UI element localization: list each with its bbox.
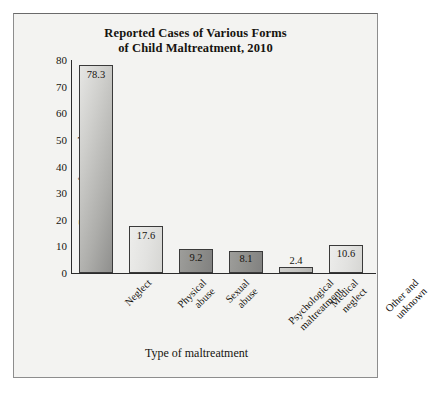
x-label-neglect-line-1: Neglect [123, 277, 155, 309]
y-tick-60: 60 [56, 107, 67, 119]
y-tick-10: 10 [56, 240, 67, 252]
y-tick-70: 70 [56, 81, 67, 93]
bar-value-medical-neglect: 2.4 [280, 255, 312, 266]
bar-value-physical-abuse: 17.6 [130, 230, 162, 241]
y-tick-0: 0 [62, 267, 68, 279]
bar-psychological-maltreatment[interactable]: 8.1 [229, 251, 263, 273]
bar-slot-medical-neglect: 2.4 [279, 60, 313, 273]
bar-physical-abuse[interactable]: 17.6 [129, 226, 163, 273]
y-tick-40: 40 [56, 161, 67, 173]
bar-slot-psychological-maltreatment: 8.1 [229, 60, 263, 273]
bar-neglect[interactable]: 78.3 [79, 65, 113, 274]
chart-figure: Reported Cases of Various Forms of Child… [13, 13, 378, 378]
plot-area: Percent of reported cases 0 10 20 30 40 … [71, 60, 376, 273]
bar-sexual-abuse[interactable]: 9.2 [179, 249, 213, 274]
x-axis-line [71, 273, 376, 274]
bar-value-other-and-unknown: 10.6 [330, 248, 362, 259]
y-tick-20: 20 [56, 214, 67, 226]
x-label-sexual-abuse: Sexual abuse [223, 277, 260, 314]
bar-value-neglect: 78.3 [80, 69, 112, 80]
x-label-physical-abuse: Physical abuse [175, 277, 217, 319]
chart-title-line-2: of Child Maltreatment, 2010 [14, 41, 377, 56]
bar-other-and-unknown[interactable]: 10.6 [329, 245, 363, 273]
y-tick-80: 80 [56, 54, 67, 66]
y-axis-line [71, 60, 72, 273]
bar-value-psychological-maltreatment: 8.1 [230, 253, 262, 264]
bar-slot-physical-abuse: 17.6 [129, 60, 163, 273]
chart-title: Reported Cases of Various Forms of Child… [14, 26, 377, 56]
x-label-neglect: Neglect [123, 277, 155, 309]
bar-slot-neglect: 78.3 [79, 60, 113, 273]
y-tick-50: 50 [56, 134, 67, 146]
bar-medical-neglect[interactable]: 2.4 [279, 267, 313, 273]
x-axis-title: Type of maltreatment [14, 346, 379, 361]
x-label-other-and-unknown: Other and unknown [383, 277, 429, 323]
bar-slot-sexual-abuse: 9.2 [179, 60, 213, 273]
bar-slot-other-and-unknown: 10.6 [329, 60, 363, 273]
bar-value-sexual-abuse: 9.2 [180, 252, 212, 263]
chart-title-line-1: Reported Cases of Various Forms [104, 26, 286, 40]
y-tick-30: 30 [56, 187, 67, 199]
